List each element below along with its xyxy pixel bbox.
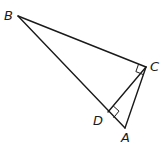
point-label-d: D xyxy=(93,113,103,128)
point-label-b: B xyxy=(4,8,13,23)
point-label-c: C xyxy=(150,59,160,74)
point-label-a: A xyxy=(120,130,130,145)
segment-bc xyxy=(18,16,146,67)
triangle-diagram: B C A D xyxy=(0,0,165,146)
segment-ca xyxy=(125,67,146,128)
